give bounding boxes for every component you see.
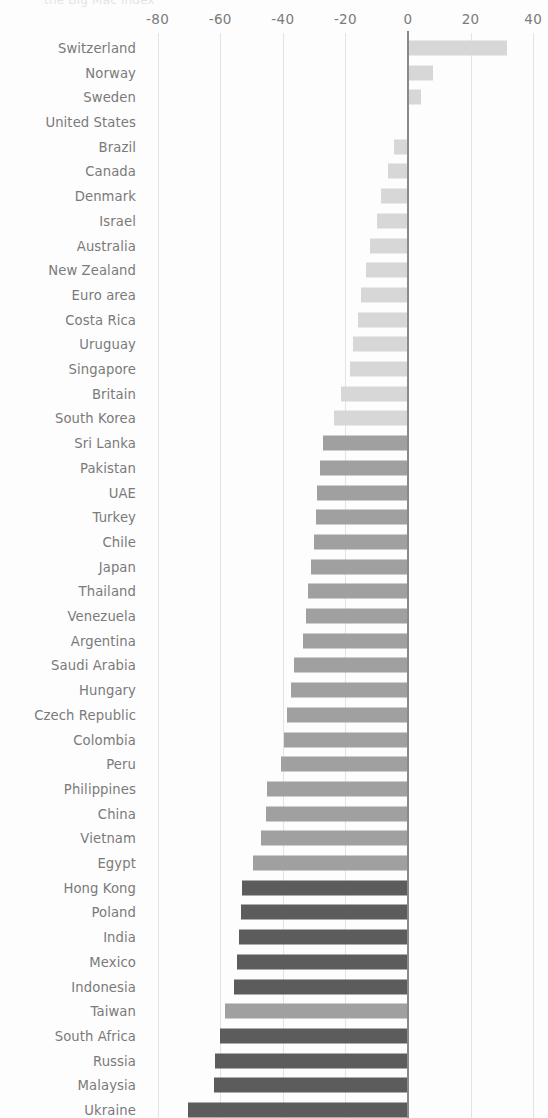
chart-row: Britain — [0, 381, 548, 406]
x-tick-label: -60 — [209, 11, 232, 27]
category-label-sri-lanka: Sri Lanka — [74, 436, 136, 451]
category-label-uae: UAE — [109, 485, 136, 500]
chart-row: Peru — [0, 752, 548, 777]
bar-china — [266, 806, 408, 821]
chart-row: Argentina — [0, 628, 548, 653]
chart-row: Sweden — [0, 85, 548, 110]
bar-poland — [241, 905, 408, 920]
category-label-venezuela: Venezuela — [67, 609, 136, 624]
bar-japan — [311, 559, 408, 574]
bar-sri-lanka — [323, 436, 408, 451]
chart-row: Philippines — [0, 777, 548, 802]
category-label-south-korea: South Korea — [55, 411, 136, 426]
bar-turkey — [316, 510, 408, 525]
chart-row: Japan — [0, 554, 548, 579]
x-tick-label: 0 — [404, 11, 413, 27]
bar-indonesia — [234, 979, 408, 994]
chart-row: Brazil — [0, 134, 548, 159]
chart-row: Uruguay — [0, 332, 548, 357]
category-label-saudi-arabia: Saudi Arabia — [51, 658, 136, 673]
chart-row: Ukraine — [0, 1098, 548, 1118]
chart-row: Costa Rica — [0, 307, 548, 332]
bar-india — [239, 930, 408, 945]
category-label-japan: Japan — [99, 559, 136, 574]
bar-switzerland — [408, 40, 507, 55]
category-label-euro-area: Euro area — [72, 287, 136, 302]
category-label-taiwan: Taiwan — [91, 1004, 136, 1019]
chart-row: Mexico — [0, 950, 548, 975]
big-mac-index-chart: the Big Mac index -80-60-40-2002040Switz… — [0, 0, 548, 1118]
chart-row: Euro area — [0, 283, 548, 308]
category-label-russia: Russia — [93, 1053, 136, 1068]
bar-philippines — [267, 781, 408, 796]
category-label-argentina: Argentina — [71, 633, 136, 648]
chart-row: Chile — [0, 530, 548, 555]
bar-brazil — [394, 139, 408, 154]
chart-row: Czech Republic — [0, 703, 548, 728]
x-tick-label: -20 — [334, 11, 357, 27]
bar-hong-kong — [242, 880, 408, 895]
chart-row: Australia — [0, 233, 548, 258]
chart-row: Vietnam — [0, 826, 548, 851]
x-tick-label: -80 — [146, 11, 169, 27]
chart-row: Colombia — [0, 727, 548, 752]
chart-row: Denmark — [0, 184, 548, 209]
chart-row: Thailand — [0, 579, 548, 604]
chart-row: Malaysia — [0, 1073, 548, 1098]
category-label-egypt: Egypt — [97, 856, 136, 871]
bar-mexico — [237, 954, 408, 969]
bar-chile — [314, 534, 408, 549]
category-label-singapore: Singapore — [69, 362, 136, 377]
bar-new-zealand — [366, 263, 408, 278]
chart-row: China — [0, 801, 548, 826]
category-label-poland: Poland — [91, 905, 136, 920]
category-label-chile: Chile — [102, 534, 136, 549]
category-label-vietnam: Vietnam — [80, 831, 136, 846]
chart-row: Norway — [0, 60, 548, 85]
bar-euro-area — [361, 287, 408, 302]
chart-row: Venezuela — [0, 604, 548, 629]
category-label-south-africa: South Africa — [55, 1028, 136, 1043]
category-label-indonesia: Indonesia — [71, 979, 136, 994]
chart-row: Hungary — [0, 678, 548, 703]
bar-sweden — [408, 90, 421, 105]
bar-venezuela — [306, 609, 408, 624]
chart-row: Poland — [0, 900, 548, 925]
category-label-costa-rica: Costa Rica — [65, 312, 136, 327]
category-label-thailand: Thailand — [79, 584, 136, 599]
chart-row: Russia — [0, 1048, 548, 1073]
chart-row: UAE — [0, 480, 548, 505]
category-label-hungary: Hungary — [79, 683, 136, 698]
x-tick-label: 40 — [524, 11, 542, 27]
category-label-new-zealand: New Zealand — [48, 263, 136, 278]
chart-row: Turkey — [0, 505, 548, 530]
bar-peru — [281, 757, 408, 772]
bar-singapore — [350, 362, 408, 377]
category-label-switzerland: Switzerland — [58, 40, 136, 55]
category-label-norway: Norway — [85, 65, 136, 80]
category-label-czech-republic: Czech Republic — [34, 707, 136, 722]
bar-ukraine — [188, 1103, 408, 1118]
category-label-turkey: Turkey — [92, 510, 136, 525]
category-label-philippines: Philippines — [64, 781, 136, 796]
bar-argentina — [303, 633, 408, 648]
bar-norway — [408, 65, 433, 80]
category-label-uruguay: Uruguay — [79, 337, 136, 352]
bar-uae — [317, 485, 408, 500]
plot-area: -80-60-40-2002040SwitzerlandNorwaySweden… — [0, 0, 548, 1118]
chart-row: Canada — [0, 159, 548, 184]
bar-uruguay — [353, 337, 408, 352]
chart-row: Taiwan — [0, 999, 548, 1024]
bar-south-africa — [220, 1028, 408, 1043]
bar-costa-rica — [358, 312, 408, 327]
category-label-malaysia: Malaysia — [78, 1078, 136, 1093]
chart-row: Pakistan — [0, 456, 548, 481]
bar-hungary — [291, 683, 408, 698]
bar-denmark — [381, 189, 408, 204]
chart-row: Singapore — [0, 357, 548, 382]
bar-malaysia — [214, 1078, 408, 1093]
chart-row: Israel — [0, 209, 548, 234]
bar-canada — [388, 164, 408, 179]
chart-row: Egypt — [0, 851, 548, 876]
bar-south-korea — [334, 411, 408, 426]
